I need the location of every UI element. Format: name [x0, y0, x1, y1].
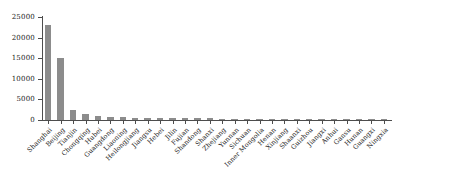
- x-tick: [247, 120, 248, 124]
- x-tick: [197, 120, 198, 124]
- bar: [120, 117, 126, 120]
- x-tick: [347, 120, 348, 124]
- x-tick: [222, 120, 223, 124]
- x-tick: [371, 120, 372, 124]
- bar: [95, 116, 101, 120]
- x-tick: [210, 120, 211, 124]
- bar: [207, 118, 213, 120]
- bar: [281, 119, 287, 120]
- x-tick: [173, 120, 174, 124]
- bar: [82, 114, 88, 120]
- x-tick: [86, 120, 87, 124]
- bar: [70, 110, 76, 120]
- y-tick-label: 20000: [2, 34, 35, 42]
- x-tick: [384, 120, 385, 124]
- bar: [256, 119, 262, 120]
- bar: [132, 118, 138, 120]
- x-tick: [73, 120, 74, 124]
- x-tick: [48, 120, 49, 124]
- bar: [231, 119, 237, 120]
- bar-chart: 2500020000150001000050000 ShanghaiBeijin…: [0, 0, 450, 186]
- x-tick: [309, 120, 310, 124]
- y-tick: [38, 120, 42, 121]
- bar: [57, 58, 63, 120]
- y-tick-label: 15000: [2, 54, 35, 62]
- bar: [294, 119, 300, 120]
- bar: [157, 118, 163, 120]
- bar: [381, 119, 387, 120]
- x-tick: [322, 120, 323, 124]
- bar: [306, 119, 312, 120]
- bar: [244, 119, 250, 120]
- x-axis-line: [42, 120, 392, 121]
- x-tick: [235, 120, 236, 124]
- x-tick: [272, 120, 273, 124]
- bar: [169, 118, 175, 120]
- x-tick: [110, 120, 111, 124]
- bar: [356, 119, 362, 120]
- y-tick-label: 10000: [2, 75, 35, 83]
- y-tick-label: 5000: [2, 95, 35, 103]
- bar: [45, 25, 51, 120]
- bar: [107, 117, 113, 120]
- x-tick: [297, 120, 298, 124]
- bar: [144, 118, 150, 120]
- bar: [219, 119, 225, 120]
- y-tick-label: 0: [2, 116, 35, 124]
- x-tick: [359, 120, 360, 124]
- bar: [269, 119, 275, 120]
- y-tick-label: 25000: [2, 13, 35, 21]
- x-tick: [284, 120, 285, 124]
- bar: [343, 119, 349, 120]
- x-tick: [334, 120, 335, 124]
- x-tick: [185, 120, 186, 124]
- x-tick: [135, 120, 136, 124]
- bar: [318, 119, 324, 120]
- bar: [331, 119, 337, 120]
- x-tick: [98, 120, 99, 124]
- x-tick: [160, 120, 161, 124]
- x-tick: [260, 120, 261, 124]
- bar: [182, 118, 188, 120]
- bar: [368, 119, 374, 120]
- x-tick: [61, 120, 62, 124]
- bars-group: [42, 17, 390, 120]
- bar: [194, 118, 200, 120]
- x-tick: [148, 120, 149, 124]
- x-tick: [123, 120, 124, 124]
